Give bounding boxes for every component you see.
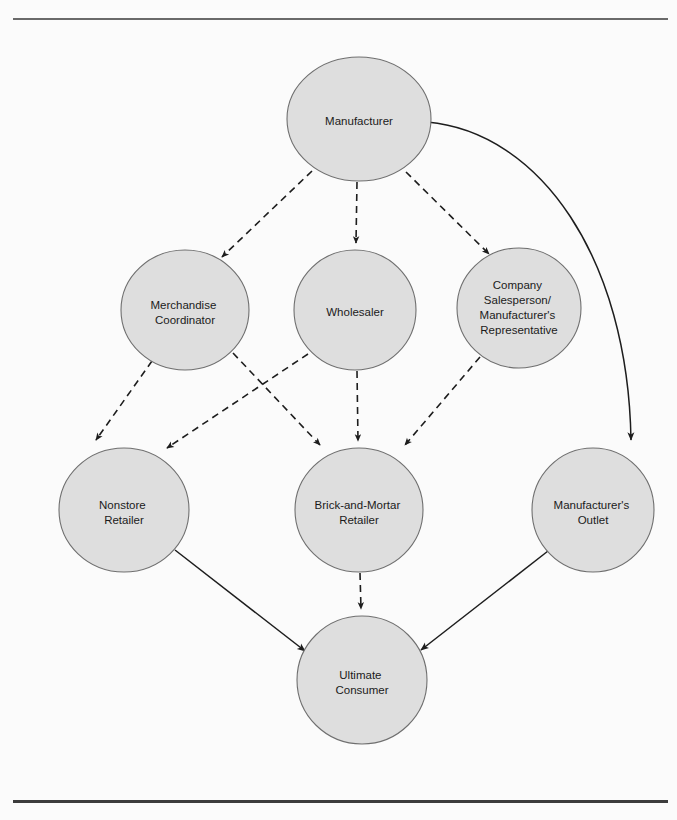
node-manufacturer[interactable]: Manufacturer xyxy=(287,57,431,181)
node-company-salesperson[interactable]: Company Salesperson/ Manufacturer's Repr… xyxy=(457,248,581,368)
edge-company-salesperson-brick-and-mortar-retailer xyxy=(405,357,480,445)
node-brick-and-mortar-retailer[interactable]: Brick-and-Mortar Retailer xyxy=(295,448,423,572)
node-label-wholesaler: Wholesaler xyxy=(326,306,384,318)
node-ultimate-consumer[interactable]: Ultimate Consumer xyxy=(297,616,427,744)
node-merchandise-coordinator[interactable]: Merchandise Coordinator xyxy=(121,250,249,370)
edge-manufacturers-outlet-ultimate-consumer xyxy=(421,551,548,650)
figure-root: Manufacturer Merchandise Coordinator Who… xyxy=(0,0,677,820)
edge-manufacturer-merchandise-coordinator xyxy=(222,171,312,257)
edge-manufacturer-wholesaler xyxy=(356,182,357,243)
node-label-manufacturer: Manufacturer xyxy=(325,115,393,127)
edge-merchandise-coordinator-nonstore-retailer xyxy=(96,361,152,440)
nodes-layer: Manufacturer Merchandise Coordinator Who… xyxy=(59,57,654,744)
node-wholesaler[interactable]: Wholesaler xyxy=(294,250,416,370)
node-shape-company-salesperson xyxy=(457,248,581,368)
node-manufacturers-outlet[interactable]: Manufacturer's Outlet xyxy=(532,448,654,572)
edge-brick-and-mortar-retailer-ultimate-consumer xyxy=(360,573,361,609)
node-nonstore-retailer[interactable]: Nonstore Retailer xyxy=(59,448,189,572)
distribution-channel-diagram: Manufacturer Merchandise Coordinator Who… xyxy=(0,0,677,820)
edge-wholesaler-brick-and-mortar-retailer xyxy=(357,371,358,441)
edge-merchandise-coordinator-brick-and-mortar-retailer xyxy=(233,353,320,445)
edge-nonstore-retailer-ultimate-consumer xyxy=(175,550,305,651)
edge-manufacturer-company-salesperson xyxy=(406,172,489,254)
